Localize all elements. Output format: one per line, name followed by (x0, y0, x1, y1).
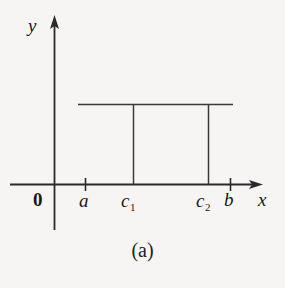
tick-label-c1: c1 (121, 191, 135, 210)
tick-label-c1-base: c (121, 190, 129, 211)
tick-label-c2-base: c (196, 190, 204, 211)
tick-label-c2-subscript: 2 (205, 201, 211, 213)
x-axis-label: x (258, 190, 266, 209)
y-axis-label: y (28, 16, 36, 35)
figure-panel-a: y x 0 a c1 c2 b (a) (0, 0, 285, 288)
tick-label-a: a (79, 191, 89, 210)
tick-label-c2: c2 (196, 191, 210, 210)
tick-label-b: b (224, 190, 234, 209)
tick-label-c1-subscript: 1 (130, 201, 136, 213)
figure-caption: (a) (0, 240, 285, 260)
origin-label: 0 (33, 190, 43, 209)
